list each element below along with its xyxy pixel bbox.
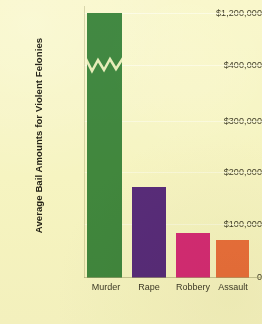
plot-area: Murder Rape Robbery Assault <box>84 0 262 278</box>
x-axis-line <box>84 277 262 278</box>
y-axis-title: Average Bail Amounts for Violent Felonie… <box>33 20 44 252</box>
x-tick-label-assault: Assault <box>206 282 260 292</box>
y-axis-line <box>84 6 85 278</box>
bar-chart: Average Bail Amounts for Violent Felonie… <box>0 0 262 324</box>
bar-murder[interactable] <box>87 13 122 278</box>
bar-robbery[interactable] <box>176 233 210 278</box>
bar-rape[interactable] <box>132 187 166 278</box>
axis-break-zigzag-icon <box>87 55 122 75</box>
bar-assault[interactable] <box>216 240 249 278</box>
